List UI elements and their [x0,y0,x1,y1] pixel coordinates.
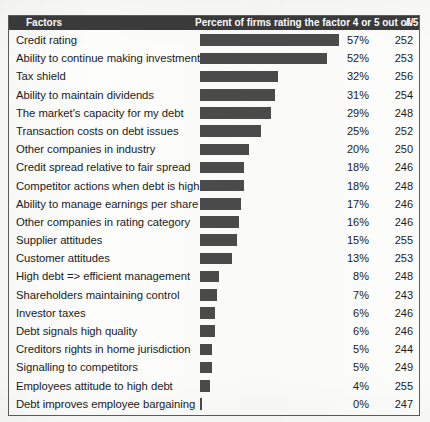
table-row: Employees attitude to high debt4%255 [9,377,419,395]
factor-label: Supplier attitudes [16,231,102,249]
factor-label: Other companies in industry [16,140,155,158]
table-row: Creditors rights in home jurisdiction5%2… [9,340,419,358]
bar [200,125,261,137]
bar [200,253,232,265]
bar-track [200,304,346,322]
percent-value: 20% [339,140,369,158]
n-value: 252 [377,31,413,49]
factor-label: Credit spread relative to fair spread [16,158,191,176]
bar-track [200,122,346,140]
factor-label: Credit rating [16,31,77,49]
factor-label: Signalling to competitors [16,358,138,376]
percent-value: 25% [339,122,369,140]
n-value: 248 [377,267,413,285]
n-value: 246 [377,304,413,322]
table-body: Credit rating57%252Ability to continue m… [9,30,419,415]
n-value: 246 [377,195,413,213]
percent-value: 18% [339,158,369,176]
n-value: 254 [377,86,413,104]
table-row: Other companies in rating category16%246 [9,213,419,231]
table-row: Debt signals high quality6%246 [9,322,419,340]
bar [200,107,271,119]
n-value: 247 [377,395,413,413]
bar [200,398,202,410]
n-value: 246 [377,322,413,340]
factor-label: High debt => efficient management [16,267,190,285]
n-value: 252 [377,122,413,140]
bar [200,34,339,46]
bar [200,71,278,83]
column-header-percent: Percent of firms rating the factor 4 or … [195,16,418,30]
bar [200,234,237,246]
n-value: 246 [377,158,413,176]
bar-track [200,377,346,395]
percent-value: 15% [339,231,369,249]
bar-track [200,140,346,158]
bar [200,380,210,392]
factor-label: Competitor actions when debt is high [16,177,199,195]
n-value: 250 [377,140,413,158]
bar-track [200,358,346,376]
bar-track [200,195,346,213]
table-row: High debt => efficient management8%248 [9,267,419,285]
percent-value: 4% [339,377,369,395]
percent-value: 18% [339,177,369,195]
bar [200,180,244,192]
bar-track [200,286,346,304]
bar [200,325,215,337]
table-row: Ability to continue making investments52… [9,49,419,67]
table-row: Shareholders maintaining control7%243 [9,286,419,304]
percent-value: 13% [339,249,369,267]
table-header-row: Factors Percent of firms rating the fact… [9,16,419,30]
table-row: Ability to manage earnings per share17%2… [9,195,419,213]
bar-track [200,395,346,413]
percent-value: 31% [339,86,369,104]
bar [200,307,215,319]
n-value: 255 [377,231,413,249]
bar [200,289,217,301]
table-row: Competitor actions when debt is high18%2… [9,177,419,195]
factor-label: Other companies in rating category [16,213,190,231]
factor-label: Shareholders maintaining control [16,286,180,304]
n-value: 256 [377,67,413,85]
bar-track [200,67,346,85]
factor-label: Investor taxes [16,304,86,322]
bar-track [200,31,346,49]
bar [200,162,244,174]
figure-caption [10,414,270,422]
table-row: Debt improves employee bargaining0%247 [9,395,419,413]
column-header-n: N [406,16,413,30]
factor-label: The market's capacity for my debt [16,104,184,122]
bar [200,271,219,283]
n-value: 253 [377,49,413,67]
bar-track [200,231,346,249]
factor-label: Employees attitude to high debt [16,377,173,395]
n-value: 255 [377,377,413,395]
bar [200,344,212,356]
bar-track [200,249,346,267]
table-row: Signalling to competitors5%249 [9,358,419,376]
percent-value: 5% [339,340,369,358]
percent-value: 29% [339,104,369,122]
bar-track [200,158,346,176]
bar-track [200,86,346,104]
table-row: Tax shield32%256 [9,67,419,85]
bar-track [200,322,346,340]
percent-value: 6% [339,322,369,340]
bar [200,89,275,101]
table-row: Ability to maintain dividends31%254 [9,86,419,104]
table-row: The market's capacity for my debt29%248 [9,104,419,122]
percent-value: 7% [339,286,369,304]
bar-track [200,177,346,195]
table-row: Transaction costs on debt issues25%252 [9,122,419,140]
bar [200,216,239,228]
bar [200,198,241,210]
factor-label: Ability to continue making investments [16,49,206,67]
factors-rating-table: Factors Percent of firms rating the fact… [8,15,420,416]
factor-label: Customer attitudes [16,249,110,267]
percent-value: 17% [339,195,369,213]
percent-value: 5% [339,358,369,376]
percent-value: 32% [339,67,369,85]
n-value: 243 [377,286,413,304]
table-row: Other companies in industry20%250 [9,140,419,158]
